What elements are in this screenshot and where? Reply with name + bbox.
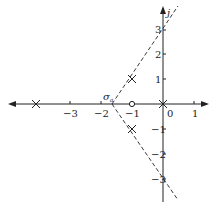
tick-label-re-1: 1	[192, 108, 198, 119]
tick-label-re-neg2: −2	[94, 108, 109, 119]
imag-axis-label: j	[165, 7, 170, 18]
imag-axis-arrow-icon	[160, 6, 166, 14]
tick-label-im-neg2: −2	[151, 149, 166, 160]
root-locus-diagram: j −3 −2 −1 0 1 3 2 1 −1 −2 −3 σa	[0, 0, 219, 215]
tick-label-im-2: 2	[155, 49, 161, 60]
tick-label-re-neg3: −3	[63, 108, 78, 119]
tick-label-re-0: 0	[167, 108, 173, 119]
real-axis-right-arrow-icon	[201, 101, 209, 107]
pole-x-icon	[128, 75, 136, 83]
real-axis-left-arrow-icon	[8, 101, 16, 107]
asymptote-upper	[112, 6, 178, 104]
centroid-label: σa	[103, 91, 114, 103]
tick-label-im-neg1: −1	[151, 124, 166, 135]
pole-x-icon	[128, 125, 136, 133]
tick-label-re-neg1: −1	[125, 108, 140, 119]
tick-label-im-1: 1	[155, 74, 161, 85]
zero-o-icon	[129, 101, 134, 106]
tick-label-im-3: 3	[155, 24, 161, 35]
